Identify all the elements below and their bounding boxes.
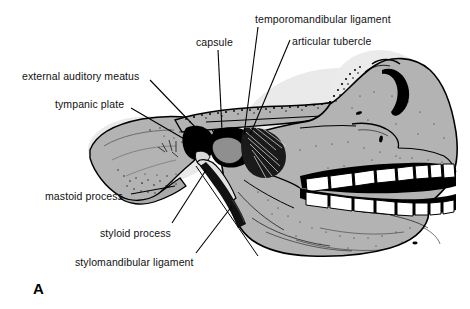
label-temporomandibular-ligament: temporomandibular ligament (255, 13, 391, 25)
panel-letter: A (33, 280, 44, 297)
skull-illustration (0, 0, 470, 309)
label-external-auditory-meatus: external auditory meatus (22, 70, 139, 82)
anatomical-figure: capsule temporomandibular ligament artic… (0, 0, 470, 309)
label-stylomandibular-ligament: stylomandibular ligament (75, 256, 194, 268)
label-styloid-process: styloid process (100, 227, 171, 239)
leader-stylomandibular-ligament (196, 206, 232, 253)
label-mastoid-process: mastoid process (45, 190, 123, 202)
label-capsule: capsule (196, 36, 233, 48)
label-articular-tubercle: articular tubercle (292, 35, 371, 47)
label-tympanic-plate: tympanic plate (55, 98, 124, 110)
